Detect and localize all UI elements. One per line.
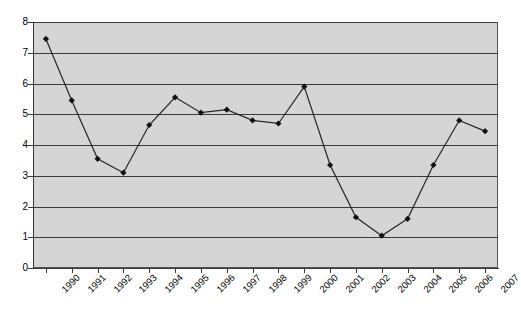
gridlines <box>34 23 497 267</box>
x-tick-label-1992: 1992 <box>111 272 134 295</box>
y-tick-label-7: 7 <box>14 49 28 57</box>
x-tick-label-1996: 1996 <box>214 272 237 295</box>
x-tick-mark-1990 <box>46 269 47 273</box>
y-tick-label-8: 8 <box>14 18 28 26</box>
y-tick-mark-0 <box>28 268 33 269</box>
x-tick-label-2000: 2000 <box>317 272 340 295</box>
y-tick-label-2: 2 <box>14 203 28 211</box>
x-tick-label-1999: 1999 <box>292 272 315 295</box>
y-tick-label-3: 3 <box>14 172 28 180</box>
gridline-8 <box>34 22 497 23</box>
x-tick-label-2002: 2002 <box>369 272 392 295</box>
gridline-7 <box>34 53 497 54</box>
y-tick-label-6: 6 <box>14 80 28 88</box>
x-tick-label-2005: 2005 <box>447 272 470 295</box>
x-tick-label-2003: 2003 <box>395 272 418 295</box>
x-tick-label-1997: 1997 <box>240 272 263 295</box>
x-axis <box>33 268 499 269</box>
y-tick-mark-4 <box>28 145 33 146</box>
gridline-4 <box>34 145 497 146</box>
x-tick-label-1994: 1994 <box>162 272 185 295</box>
y-tick-mark-3 <box>28 176 33 177</box>
x-tick-label-1991: 1991 <box>85 272 108 295</box>
y-axis <box>33 22 34 269</box>
x-tick-label-1995: 1995 <box>188 272 211 295</box>
y-tick-mark-1 <box>28 237 33 238</box>
gridline-2 <box>34 207 497 208</box>
x-tick-label-2007: 2007 <box>498 272 521 295</box>
y-tick-label-4: 4 <box>14 141 28 149</box>
x-tick-label-2004: 2004 <box>421 272 444 295</box>
gridline-1 <box>34 237 497 238</box>
y-tick-label-0: 0 <box>14 264 28 272</box>
y-tick-label-5: 5 <box>14 110 28 118</box>
x-tick-label-2001: 2001 <box>343 272 366 295</box>
gridline-3 <box>34 176 497 177</box>
x-tick-label-1990: 1990 <box>59 272 82 295</box>
x-tick-label-1998: 1998 <box>266 272 289 295</box>
plot-area <box>33 22 498 268</box>
y-tick-mark-8 <box>28 22 33 23</box>
y-tick-mark-2 <box>28 207 33 208</box>
x-tick-label-2006: 2006 <box>472 272 495 295</box>
y-tick-label-1: 1 <box>14 233 28 241</box>
x-tick-label-1993: 1993 <box>137 272 160 295</box>
gridline-6 <box>34 84 497 85</box>
y-tick-mark-7 <box>28 53 33 54</box>
gridline-5 <box>34 114 497 115</box>
y-tick-mark-6 <box>28 84 33 85</box>
y-tick-mark-5 <box>28 114 33 115</box>
